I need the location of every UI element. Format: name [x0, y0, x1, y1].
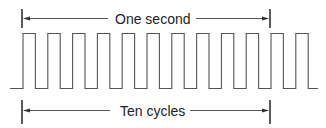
top-label: One second [115, 11, 191, 27]
waveform-diagram: One second Ten cycles [0, 0, 326, 128]
bottom-label: Ten cycles [120, 103, 185, 119]
bottom-right-arrowhead [262, 109, 269, 113]
one-second-dimension: One second [22, 9, 270, 28]
top-right-arrowhead [262, 17, 269, 21]
ten-cycles-dimension: Ten cycles [22, 100, 270, 124]
bottom-left-arrowhead [23, 109, 30, 113]
top-left-arrowhead [23, 17, 30, 21]
square-wave [10, 34, 318, 89]
